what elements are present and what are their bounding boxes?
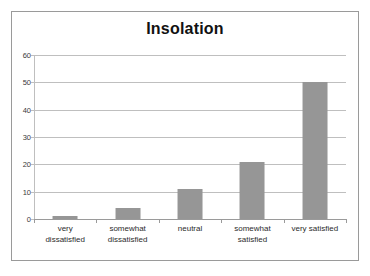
x-category-label: somewhatdissatisfied <box>96 224 158 258</box>
x-category-label-line: dissatisfied <box>96 235 158 246</box>
y-tick-label-10: 10 <box>13 187 31 196</box>
y-tick-label-0: 0 <box>13 215 31 224</box>
x-tick-mark <box>346 219 347 223</box>
chart-frame: Insolation 0102030405060 verydissatisfie… <box>11 11 359 261</box>
y-tick-label-30: 30 <box>13 133 31 142</box>
x-category-label-line: neutral <box>159 224 221 235</box>
y-tick-label-20: 20 <box>13 160 31 169</box>
bar-slot <box>34 55 96 219</box>
x-tick-mark <box>284 219 285 223</box>
x-category-label-line: dissatisfied <box>34 235 96 246</box>
bar[interactable] <box>178 189 203 219</box>
bar-slot <box>159 55 221 219</box>
bar-slot <box>284 55 346 219</box>
x-category-label: very satisfied <box>284 224 346 258</box>
x-category-label-line: satisfied <box>221 235 283 246</box>
bar-slot <box>221 55 283 219</box>
y-tick-label-40: 40 <box>13 105 31 114</box>
x-tick-mark <box>159 219 160 223</box>
x-tick-mark <box>96 219 97 223</box>
x-axis-category-labels: verydissatisfiedsomewhatdissatisfiedneut… <box>34 224 346 258</box>
y-axis-tick-labels: 0102030405060 <box>12 55 31 219</box>
bar[interactable] <box>240 162 265 219</box>
x-category-label-line: very <box>34 224 96 235</box>
x-category-label: neutral <box>159 224 221 258</box>
x-category-label-line: somewhat <box>221 224 283 235</box>
x-category-label: verydissatisfied <box>34 224 96 258</box>
x-tick-mark <box>34 219 35 223</box>
x-category-label: somewhatsatisfied <box>221 224 283 258</box>
x-category-label-line: somewhat <box>96 224 158 235</box>
bar-slot <box>96 55 158 219</box>
chart-title: Insolation <box>12 20 358 38</box>
x-category-label-line: very satisfied <box>284 224 346 235</box>
y-tick-label-60: 60 <box>13 51 31 60</box>
bar[interactable] <box>115 208 140 219</box>
y-tick-label-50: 50 <box>13 78 31 87</box>
x-tick-mark <box>221 219 222 223</box>
bar[interactable] <box>302 82 327 219</box>
plot-area <box>34 55 346 219</box>
